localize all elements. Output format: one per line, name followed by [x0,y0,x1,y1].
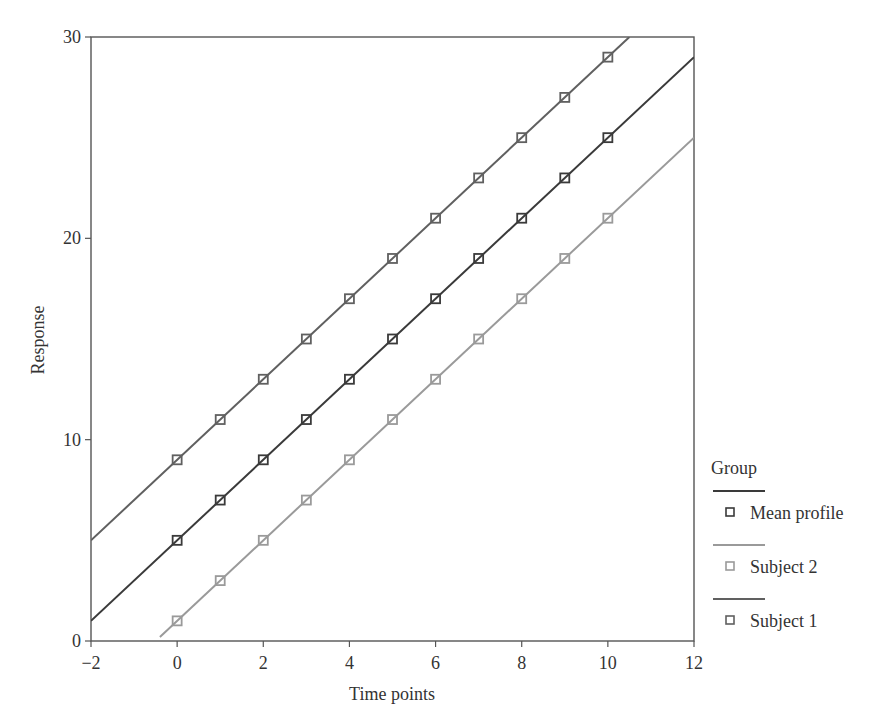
line-chart: −20246810120102030 Time points Response … [0,0,887,721]
y-axis-title: Response [28,305,48,374]
legend-title: Group [711,458,757,478]
legend-marker-icon [726,616,734,624]
legend-marker-icon [726,508,734,516]
legend-label: Subject 2 [750,557,818,577]
y-tick-label: 30 [63,27,81,47]
x-tick-label: 6 [431,653,440,673]
x-tick-label: 0 [173,653,182,673]
y-tick-label: 0 [72,631,81,651]
x-tick-label: 12 [685,653,703,673]
x-tick-label: 10 [599,653,617,673]
x-axis-title: Time points [349,684,435,704]
x-tick-label: 2 [259,653,268,673]
x-tick-label: 4 [345,653,354,673]
legend-label: Subject 1 [750,611,818,631]
axes: −20246810120102030 [63,27,703,673]
y-tick-label: 10 [63,430,81,450]
legend-label: Mean profile [750,503,843,523]
legend-marker-icon [726,562,734,570]
x-tick-label: −2 [81,653,100,673]
series-layer [91,37,694,637]
y-tick-label: 20 [63,228,81,248]
series-line [160,138,694,637]
x-tick-label: 8 [517,653,526,673]
legend: Group Mean profileSubject 2Subject 1 [711,458,843,631]
